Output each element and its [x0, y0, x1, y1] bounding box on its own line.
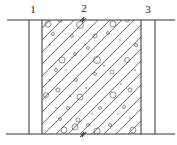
middle-layer-hatch: [42, 18, 177, 136]
label-1: 1: [30, 3, 36, 15]
label-3: 3: [145, 3, 151, 15]
label-2: 2: [81, 2, 87, 14]
layered-section-diagram: 1 2 3: [0, 0, 177, 145]
